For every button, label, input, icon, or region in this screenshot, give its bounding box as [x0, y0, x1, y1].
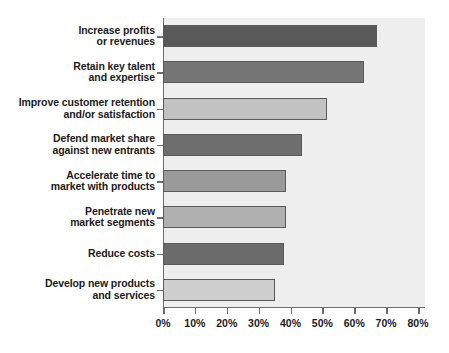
bar	[163, 25, 377, 47]
x-axis-tick-label: 80%	[407, 317, 428, 329]
bar	[163, 98, 327, 120]
x-axis-tick	[418, 308, 420, 314]
category-label-line: against new entrants	[0, 145, 155, 157]
category-label: Increase profitsor revenues	[0, 25, 155, 48]
category-label: Penetrate newmarket segments	[0, 206, 155, 229]
x-axis-tick	[227, 308, 229, 314]
y-axis-tick	[157, 254, 163, 256]
x-axis-tick-label: 50%	[312, 317, 333, 329]
y-axis-tick	[157, 217, 163, 219]
category-label-line: and expertise	[0, 72, 155, 84]
x-axis-tick-label: 0%	[155, 317, 170, 329]
bar	[163, 134, 302, 156]
category-label: Reduce costs	[0, 248, 155, 260]
x-axis-tick	[386, 308, 388, 314]
category-label-line: Improve customer retention	[0, 97, 155, 109]
bar-row	[163, 170, 425, 192]
y-axis-tick	[157, 36, 163, 38]
bar-row	[163, 279, 425, 301]
bar	[163, 170, 286, 192]
y-axis-tick	[157, 290, 163, 292]
category-label-line: and/or satisfaction	[0, 109, 155, 121]
y-axis-tick	[157, 72, 163, 74]
x-axis-tick	[291, 308, 293, 314]
bar-row	[163, 134, 425, 156]
category-label: Improve customer retentionand/or satisfa…	[0, 97, 155, 120]
category-label: Retain key talentand expertise	[0, 61, 155, 84]
bar-row	[163, 206, 425, 228]
y-axis-tick	[157, 145, 163, 147]
category-label: Accelerate time tomarket with products	[0, 170, 155, 193]
x-axis-tick	[354, 308, 356, 314]
x-axis-tick-label: 70%	[376, 317, 397, 329]
bar-chart: Increase profitsor revenuesRetain key ta…	[0, 0, 449, 353]
bar	[163, 279, 275, 301]
x-axis-tick	[163, 308, 165, 314]
bar	[163, 61, 364, 83]
x-axis-tick-label: 60%	[344, 317, 365, 329]
x-axis-tick-label: 20%	[216, 317, 237, 329]
bar-row	[163, 25, 425, 47]
bars-layer	[163, 18, 425, 308]
category-label-line: Reduce costs	[0, 248, 155, 260]
y-axis-tick	[157, 109, 163, 111]
x-axis: 0%10%20%30%40%50%60%70%80%	[0, 308, 449, 353]
category-label: Develop new productsand services	[0, 278, 155, 301]
y-axis-tick	[157, 181, 163, 183]
x-axis-tick	[259, 308, 261, 314]
category-label-line: market segments	[0, 217, 155, 229]
bar-row	[163, 98, 425, 120]
x-axis-tick	[322, 308, 324, 314]
category-label-line: and services	[0, 290, 155, 302]
category-label: Defend market shareagainst new entrants	[0, 133, 155, 156]
category-label-line: market with products	[0, 181, 155, 193]
category-labels: Increase profitsor revenuesRetain key ta…	[0, 18, 155, 308]
bar-row	[163, 61, 425, 83]
bar	[163, 243, 284, 265]
x-axis-tick-label: 10%	[184, 317, 205, 329]
bar	[163, 206, 286, 228]
category-label-line: or revenues	[0, 36, 155, 48]
bar-row	[163, 243, 425, 265]
x-axis-tick-label: 40%	[280, 317, 301, 329]
x-axis-tick-label: 30%	[248, 317, 269, 329]
x-axis-tick	[195, 308, 197, 314]
